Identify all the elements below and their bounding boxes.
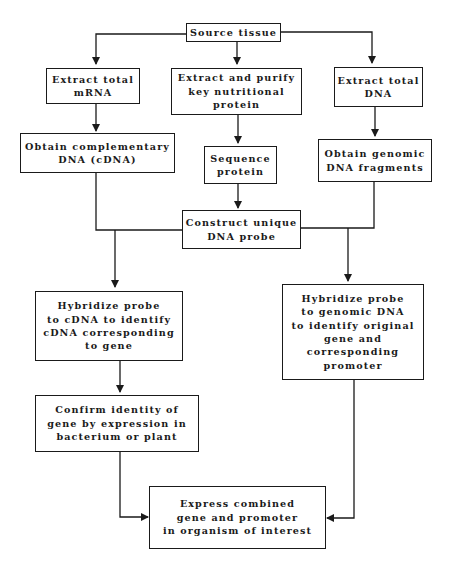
- arrow-genomic-to-express: [327, 380, 354, 518]
- node-hybridize-cdna: Hybridize probe to cDNA to identify cDNA…: [35, 291, 183, 361]
- line-cdna-to-probe: [96, 173, 182, 230]
- node-obtain-cdna: Obtain complementary DNA (cDNA): [20, 133, 175, 173]
- node-construct-probe: Construct unique DNA probe: [182, 210, 301, 249]
- node-obtain-genomic-fragments: Obtain genomic DNA fragments: [318, 139, 432, 182]
- node-hybridize-genomic: Hybridize probe to genomic DNA to identi…: [282, 284, 424, 380]
- node-confirm-identity: Confirm identity of gene by expression i…: [35, 395, 199, 452]
- node-sequence-protein: Sequence protein: [204, 146, 277, 184]
- arrow-source-to-dna: [281, 32, 372, 63]
- node-express-combined: Express combined gene and promoter in or…: [149, 486, 326, 549]
- arrow-source-to-mrna: [96, 34, 186, 64]
- node-extract-purify-protein: Extract and purify key nutritional prote…: [171, 68, 302, 115]
- node-source-tissue: Source tissue: [186, 23, 281, 42]
- node-extract-total-dna: Extract total DNA: [334, 67, 423, 107]
- line-genomic-to-probe: [301, 182, 374, 228]
- node-extract-total-mrna: Extract total mRNA: [46, 68, 140, 104]
- arrow-confirm-to-express: [120, 452, 148, 517]
- flowchart: Source tissue Extract total mRNA Extract…: [0, 0, 450, 565]
